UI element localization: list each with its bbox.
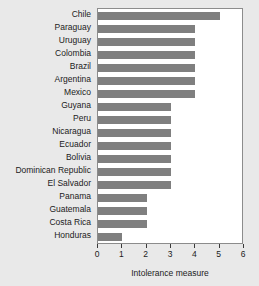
category-label: Costa Rica [49, 216, 91, 229]
bar [98, 25, 195, 33]
bar [98, 168, 171, 176]
category-label-row: Ecuador [0, 138, 94, 151]
category-label-row: Paraguay [0, 21, 94, 34]
category-label-row: Brazil [0, 60, 94, 73]
bar-row [98, 152, 242, 165]
category-label-row: Nicaragua [0, 125, 94, 138]
category-label-row: Honduras [0, 229, 94, 242]
x-axis-tick-label: 1 [119, 249, 124, 259]
category-label: Dominican Republic [15, 164, 91, 177]
bar [98, 142, 171, 150]
x-axis-title: Intolerance measure [97, 268, 243, 278]
x-axis-tick-label: 3 [168, 249, 173, 259]
bar-row [98, 87, 242, 100]
bar-row [98, 74, 242, 87]
bar [98, 64, 195, 72]
bar [98, 129, 171, 137]
x-axis-tick [97, 244, 98, 248]
bar-row [98, 191, 242, 204]
category-label: Nicaragua [52, 125, 91, 138]
bar [98, 12, 220, 20]
bar-row [98, 139, 242, 152]
x-axis-tick [243, 244, 244, 248]
category-label: Paraguay [55, 21, 91, 34]
category-label-row: Dominican Republic [0, 164, 94, 177]
category-label: Mexico [64, 86, 91, 99]
bar [98, 220, 147, 228]
bar-row [98, 9, 242, 22]
category-label: Peru [73, 112, 91, 125]
category-label-row: Colombia [0, 47, 94, 60]
category-label-row: Guatemala [0, 203, 94, 216]
category-label: Colombia [55, 47, 91, 60]
category-label: Brazil [70, 60, 91, 73]
category-label: Ecuador [59, 138, 91, 151]
category-label-row: Uruguay [0, 34, 94, 47]
category-label: Uruguay [59, 34, 91, 47]
category-label-row: Argentina [0, 73, 94, 86]
bar [98, 194, 147, 202]
x-axis-tick-label: 6 [241, 249, 246, 259]
category-label: Chile [72, 8, 91, 21]
bar-row [98, 113, 242, 126]
bar [98, 103, 171, 111]
category-label-row: Peru [0, 112, 94, 125]
category-label: Guyana [61, 99, 91, 112]
bar-series [98, 9, 242, 243]
category-label-row: Guyana [0, 99, 94, 112]
bar-row [98, 22, 242, 35]
bar-row [98, 217, 242, 230]
bar-row [98, 178, 242, 191]
bar [98, 90, 195, 98]
x-axis-tick [146, 244, 147, 248]
x-axis-tick-label: 2 [143, 249, 148, 259]
bar-row [98, 165, 242, 178]
bar [98, 233, 122, 241]
x-axis-tick [194, 244, 195, 248]
category-label-row: El Salvador [0, 177, 94, 190]
bar-row [98, 61, 242, 74]
bar [98, 181, 171, 189]
bar [98, 51, 195, 59]
bar [98, 116, 171, 124]
bar-row [98, 100, 242, 113]
x-axis-tick-label: 4 [192, 249, 197, 259]
category-label: El Salvador [48, 177, 91, 190]
category-label-row: Mexico [0, 86, 94, 99]
x-axis-tick [121, 244, 122, 248]
category-label-row: Panama [0, 190, 94, 203]
bar [98, 38, 195, 46]
intolerance-measure-bar-chart: ChileParaguayUruguayColombiaBrazilArgent… [0, 0, 259, 286]
bar-row [98, 204, 242, 217]
bar [98, 155, 171, 163]
category-label: Guatemala [49, 203, 91, 216]
bar [98, 207, 147, 215]
bar-row [98, 35, 242, 48]
category-label: Bolivia [66, 151, 91, 164]
category-label: Honduras [54, 229, 91, 242]
x-axis-tick-label: 5 [216, 249, 221, 259]
category-label: Argentina [55, 73, 91, 86]
category-label: Panama [59, 190, 91, 203]
bar [98, 77, 195, 85]
plot-area [97, 8, 243, 244]
x-axis-tick-label: 0 [95, 249, 100, 259]
category-label-row: Chile [0, 8, 94, 21]
bar-row [98, 126, 242, 139]
x-axis-tick [170, 244, 171, 248]
x-axis: 0123456 [97, 244, 243, 245]
category-label-row: Bolivia [0, 151, 94, 164]
bar-row [98, 48, 242, 61]
category-axis-labels: ChileParaguayUruguayColombiaBrazilArgent… [0, 8, 94, 242]
bar-row [98, 230, 242, 243]
category-label-row: Costa Rica [0, 216, 94, 229]
x-axis-tick [219, 244, 220, 248]
